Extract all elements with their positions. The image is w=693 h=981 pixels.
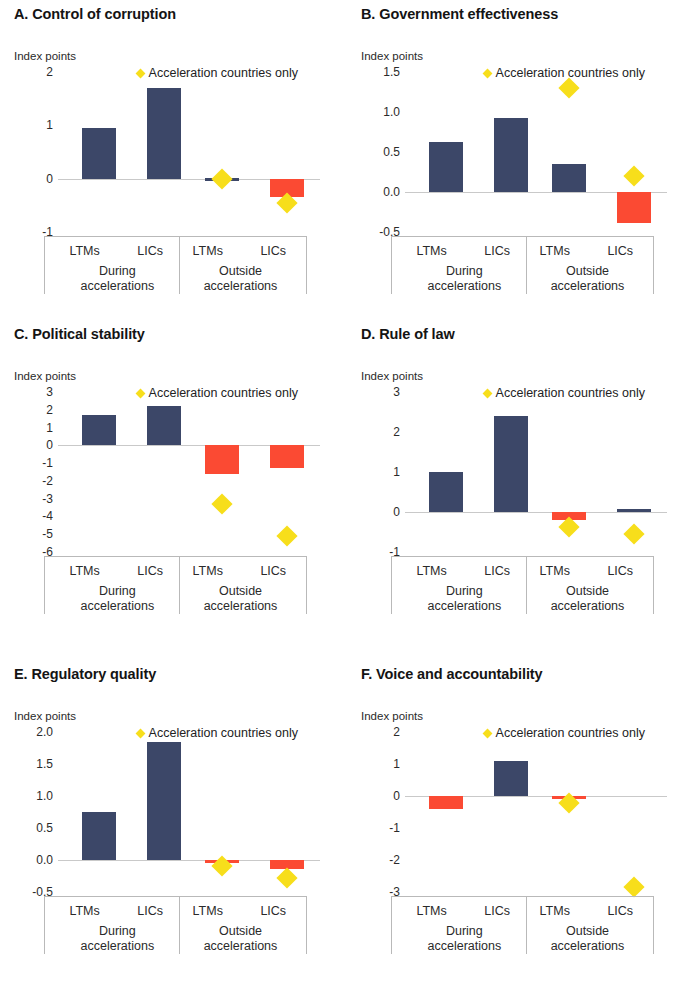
legend: Acceleration countries only bbox=[137, 726, 298, 740]
group-label-line1: During bbox=[81, 584, 155, 599]
bar bbox=[617, 509, 651, 512]
group-label-line2: accelerations bbox=[428, 939, 502, 954]
bar bbox=[494, 761, 528, 796]
zero-baseline bbox=[405, 512, 667, 513]
group-label-line2: accelerations bbox=[81, 279, 155, 294]
bar bbox=[270, 445, 304, 468]
bar bbox=[617, 192, 651, 223]
y-axis-tick-label: -5 bbox=[42, 528, 58, 540]
y-axis-tick-label: 0.5 bbox=[36, 822, 58, 834]
category-group-separator bbox=[391, 236, 392, 294]
bar bbox=[147, 742, 181, 860]
group-label-line1: Outside bbox=[551, 924, 625, 939]
y-axis-tick-label: 0.0 bbox=[383, 186, 405, 198]
panel-title: E. Regulatory quality bbox=[14, 666, 346, 682]
y-axis-tick-label: 2 bbox=[393, 726, 405, 738]
category-group-separator bbox=[179, 236, 180, 294]
panel-a: A. Control of corruptionIndex points210-… bbox=[0, 6, 346, 28]
bar bbox=[494, 416, 528, 512]
yellow-diamond-icon bbox=[482, 728, 492, 738]
group-label-line1: Outside bbox=[204, 264, 278, 279]
category-label: LICs bbox=[260, 564, 286, 578]
yellow-diamond-icon bbox=[482, 68, 492, 78]
group-label-line1: During bbox=[81, 264, 155, 279]
category-label: LTMs bbox=[416, 904, 446, 918]
group-label: Outsideaccelerations bbox=[551, 924, 625, 954]
bar bbox=[205, 445, 239, 473]
legend-label: Acceleration countries only bbox=[149, 66, 298, 80]
acceleration-countries-diamond-marker bbox=[211, 856, 232, 877]
group-label-line2: accelerations bbox=[81, 939, 155, 954]
category-group-separator bbox=[526, 556, 527, 614]
yellow-diamond-icon bbox=[135, 68, 145, 78]
acceleration-countries-diamond-marker bbox=[624, 877, 645, 898]
group-label-line2: accelerations bbox=[428, 599, 502, 614]
y-axis-tick-label: -2 bbox=[42, 475, 58, 487]
acceleration-countries-diamond-marker bbox=[558, 77, 579, 98]
bar bbox=[494, 118, 528, 192]
y-axis-tick-label: 1 bbox=[393, 466, 405, 478]
category-label: LTMs bbox=[540, 244, 570, 258]
y-axis-tick-label: -1 bbox=[389, 822, 405, 834]
bar bbox=[429, 142, 463, 192]
group-label-line1: Outside bbox=[551, 584, 625, 599]
acceleration-countries-diamond-marker bbox=[277, 525, 298, 546]
category-group-separator bbox=[44, 556, 45, 614]
plot-area: 1.51.00.50.0-0.5Acceleration countries o… bbox=[405, 72, 667, 232]
y-axis-tick-label: 2 bbox=[46, 66, 58, 78]
plot-area: 3210-1Acceleration countries only bbox=[405, 392, 667, 552]
acceleration-countries-diamond-marker bbox=[624, 523, 645, 544]
group-label-line1: Outside bbox=[551, 264, 625, 279]
group-label-line2: accelerations bbox=[204, 939, 278, 954]
legend: Acceleration countries only bbox=[484, 386, 645, 400]
y-axis-tick-label: 2 bbox=[46, 404, 58, 416]
category-group-separator bbox=[391, 556, 392, 614]
category-label: LTMs bbox=[193, 904, 223, 918]
y-axis-tick-label: 3 bbox=[393, 386, 405, 398]
bar bbox=[552, 164, 586, 192]
group-label-line2: accelerations bbox=[551, 939, 625, 954]
group-label: Duringaccelerations bbox=[81, 924, 155, 954]
y-axis-tick-label: 1 bbox=[46, 422, 58, 434]
category-group-separator bbox=[653, 236, 654, 294]
panel-title: C. Political stability bbox=[14, 326, 346, 342]
panel-title: A. Control of corruption bbox=[14, 6, 346, 22]
category-group-separator bbox=[306, 896, 307, 954]
category-label: LICs bbox=[137, 564, 163, 578]
legend: Acceleration countries only bbox=[484, 726, 645, 740]
bar bbox=[82, 128, 116, 179]
category-label: LICs bbox=[137, 244, 163, 258]
category-label: LICs bbox=[607, 244, 633, 258]
y-axis-tick-label: 0 bbox=[46, 173, 58, 185]
panel-title: F. Voice and accountability bbox=[361, 666, 693, 682]
y-axis-unit-label: Index points bbox=[14, 50, 76, 62]
category-group-separator bbox=[306, 556, 307, 614]
group-label-line1: During bbox=[428, 584, 502, 599]
group-label: Duringaccelerations bbox=[81, 584, 155, 614]
group-label: Outsideaccelerations bbox=[204, 264, 278, 294]
y-axis-tick-label: 2 bbox=[393, 426, 405, 438]
category-axis bbox=[391, 236, 653, 237]
bar bbox=[147, 406, 181, 445]
group-label: Outsideaccelerations bbox=[551, 264, 625, 294]
y-axis-tick-label: 1 bbox=[46, 119, 58, 131]
plot-area: 2.01.51.00.50.0-0.5Acceleration countrie… bbox=[58, 732, 320, 892]
legend-label: Acceleration countries only bbox=[496, 726, 645, 740]
y-axis-unit-label: Index points bbox=[361, 710, 423, 722]
y-axis-tick-label: 1.5 bbox=[36, 758, 58, 770]
group-label: Outsideaccelerations bbox=[204, 584, 278, 614]
panel-c: C. Political stabilityIndex points3210-1… bbox=[0, 326, 346, 348]
group-label: Outsideaccelerations bbox=[204, 924, 278, 954]
category-label: LTMs bbox=[193, 564, 223, 578]
group-label-line1: Outside bbox=[204, 584, 278, 599]
legend-label: Acceleration countries only bbox=[496, 386, 645, 400]
y-axis-tick-label: 0 bbox=[46, 439, 58, 451]
group-label-line2: accelerations bbox=[428, 279, 502, 294]
y-axis-unit-label: Index points bbox=[361, 50, 423, 62]
y-axis-tick-label: 0.5 bbox=[383, 146, 405, 158]
category-group-separator bbox=[306, 236, 307, 294]
y-axis-tick-label: 2.0 bbox=[36, 726, 58, 738]
category-label: LICs bbox=[260, 904, 286, 918]
yellow-diamond-icon bbox=[135, 388, 145, 398]
figure-root: A. Control of corruptionIndex points210-… bbox=[0, 0, 693, 981]
